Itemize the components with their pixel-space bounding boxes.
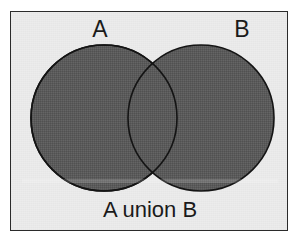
venn-diagram-screenshot: A B A union B [0, 0, 300, 240]
circle-set-b [128, 45, 274, 191]
figure-caption: A union B [0, 199, 300, 221]
set-b-label: B [142, 18, 300, 41]
